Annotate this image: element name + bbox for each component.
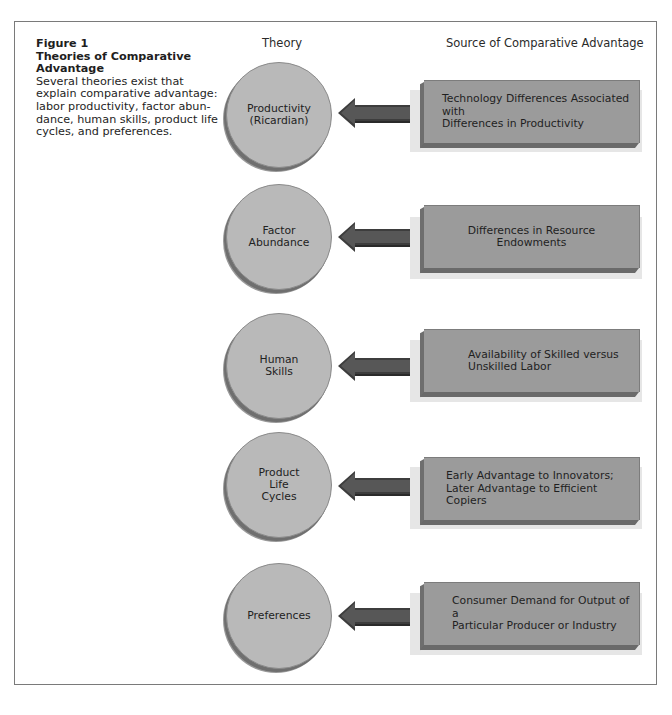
theory-disc: Productivity (Ricardian) [226, 62, 332, 168]
box-bevel-bottom [420, 645, 639, 650]
source-box-face: Technology Differences Associated with D… [424, 80, 640, 143]
theory-label: Human Skills [254, 354, 305, 378]
theory-label: Productivity (Ricardian) [241, 103, 317, 127]
source-box: Availability of Skilled versus Unskilled… [420, 329, 640, 397]
source-label: Differences in Resource Endowments [442, 225, 633, 250]
theory-row-preferences: Preferences Consumer Demand for Output o… [0, 563, 672, 693]
theory-row-factor-abundance: Factor Abundance Differences in Resource… [0, 184, 672, 314]
theory-disc: Product Life Cycles [226, 432, 332, 538]
figure-number: Figure 1 [36, 38, 226, 51]
theory-row-productivity: Productivity (Ricardian) Technology Diff… [0, 62, 672, 192]
source-label: Early Advantage to Innovators; Later Adv… [442, 470, 633, 507]
source-label: Consumer Demand for Output of a Particul… [442, 595, 633, 632]
theory-label: Product Life Cycles [253, 467, 306, 503]
arrow-left-icon [337, 351, 417, 381]
source-box-face: Early Advantage to Innovators; Later Adv… [424, 457, 640, 520]
arrow-left-icon [337, 98, 417, 128]
source-box: Early Advantage to Innovators; Later Adv… [420, 457, 640, 525]
column-header-theory: Theory [262, 36, 302, 50]
source-box: Technology Differences Associated with D… [420, 80, 640, 148]
source-box: Differences in Resource Endowments [420, 205, 640, 273]
theory-disc: Human Skills [226, 313, 332, 419]
source-label: Technology Differences Associated with D… [442, 93, 633, 130]
theory-disc: Factor Abundance [226, 184, 332, 290]
arrow-left-icon [337, 601, 417, 631]
theory-label: Factor Abundance [243, 225, 316, 249]
source-box-face: Availability of Skilled versus Unskilled… [424, 329, 640, 392]
arrow-left-icon [337, 471, 417, 501]
box-bevel-bottom [420, 143, 639, 148]
source-box-face: Consumer Demand for Output of a Particul… [424, 582, 640, 645]
theory-row-product-life-cycles: Product Life Cycles Early Advantage to I… [0, 432, 672, 562]
box-bevel-bottom [420, 520, 639, 525]
box-bevel-bottom [420, 392, 639, 397]
source-label: Availability of Skilled versus Unskilled… [442, 349, 619, 374]
theory-row-human-skills: Human Skills Availability of Skilled ver… [0, 313, 672, 443]
source-box: Consumer Demand for Output of a Particul… [420, 582, 640, 650]
arrow-left-icon [337, 222, 417, 252]
column-header-source: Source of Comparative Advantage [446, 36, 644, 50]
box-bevel-bottom [420, 268, 639, 273]
theory-disc: Preferences [226, 563, 332, 669]
theory-label: Preferences [241, 610, 317, 622]
source-box-face: Differences in Resource Endowments [424, 205, 640, 268]
